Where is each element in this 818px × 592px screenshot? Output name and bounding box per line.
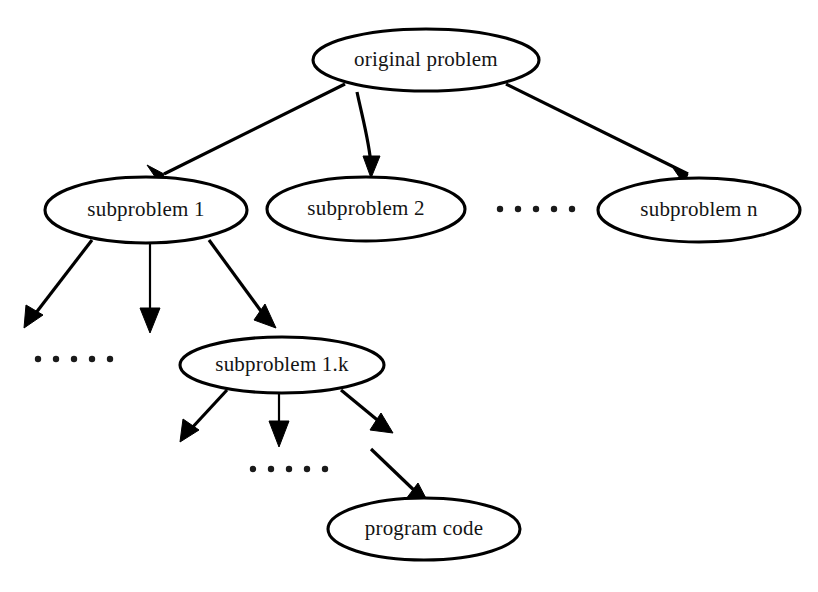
node-label-program-code: program code [365,516,483,540]
node-subproblem-n[interactable]: subproblem n [598,178,800,242]
node-original-problem[interactable]: original problem [313,29,539,91]
node-subproblem-2[interactable]: subproblem 2 [267,177,465,241]
node-label-subproblem-2: subproblem 2 [307,196,424,220]
decomposition-tree-diagram: original problem subproblem 1 subproblem… [0,0,818,592]
node-program-code[interactable]: program code [328,498,520,560]
node-subproblem-1k[interactable]: subproblem 1.k [180,337,384,393]
diagram-root: original problem subproblem 1 subproblem… [0,0,818,592]
node-label-subproblem-1k: subproblem 1.k [215,352,349,376]
node-subproblem-1[interactable]: subproblem 1 [45,177,247,243]
node-label-original-problem: original problem [354,47,498,71]
node-label-subproblem-1: subproblem 1 [87,197,204,221]
node-label-subproblem-n: subproblem n [640,197,758,221]
